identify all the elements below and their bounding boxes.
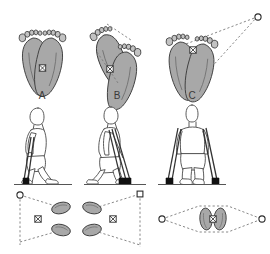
panel-label-a: A [39, 90, 46, 101]
figure-c-person-front-view [177, 105, 209, 185]
figure-a-person-side-view [22, 108, 59, 184]
panel-c-footprint-diagram [165, 14, 261, 105]
figure-root: A B C [0, 0, 270, 254]
footprint-lower-a [51, 223, 72, 238]
bottom-support-polygon-c [159, 206, 265, 232]
centre-of-mass-marker-c [190, 47, 196, 53]
centre-of-mass-marker-b [107, 66, 113, 72]
footprint-lower-b [82, 223, 103, 238]
aid-contact-circle-marker-a [17, 192, 23, 198]
bottom-support-polygon-b [81, 191, 142, 247]
aid-contact-square-marker-b [137, 191, 143, 197]
aid-contact-circle-marker-c [255, 14, 261, 20]
panel-label-c: C [188, 90, 195, 101]
bottom-support-polygon-a [17, 192, 72, 245]
centre-of-mass-marker-bottom-a [35, 216, 41, 222]
centre-of-mass-marker-bottom-b [110, 216, 116, 222]
footprint-upper-a [50, 200, 71, 215]
centre-of-mass-marker-a [39, 65, 45, 71]
panel-label-b: B [114, 90, 121, 101]
aid-contact-circle-marker-c-left [159, 216, 165, 222]
aid-contact-circle-marker-c-right [259, 216, 265, 222]
centre-of-mass-marker-bottom-c [210, 216, 216, 222]
support-edge-b-upper [95, 194, 140, 208]
figure-svg: A B C [0, 0, 270, 254]
footprint-upper-b [81, 200, 102, 215]
support-edge-b-lower [95, 231, 140, 245]
panel-a-footprint-diagram [18, 28, 66, 98]
